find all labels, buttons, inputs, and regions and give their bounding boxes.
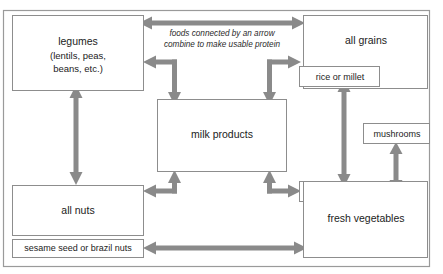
node-all-nuts[interactable]: all nuts [13,186,144,236]
node-all-grains-label: all grains [345,34,387,46]
node-mushrooms-label: mushrooms [373,129,421,139]
caption-line-2: combine to make usable protein [164,40,281,49]
node-sesame-seed-or-brazil-nuts-label: sesame seed or brazil nuts [24,243,132,253]
node-rice-or-millet-label: rice or millet [316,72,365,82]
node-legumes-label-line1: legumes [58,35,98,47]
node-legumes[interactable]: legumes (lentils, peas, beans, etc.) [13,16,144,91]
node-rice-or-millet[interactable]: rice or millet [300,67,380,87]
node-fresh-vegetables-label: fresh vegetables [327,212,404,224]
connector-rice-potato [338,79,351,187]
node-mushrooms[interactable]: mushrooms [364,124,430,144]
connector-sesame-fresh-vegetables [143,242,307,255]
connector-legumes-milk-products [143,56,181,106]
diagram-caption: foods connected by an arrow combine to m… [164,29,281,49]
node-sesame-seed-or-brazil-nuts[interactable]: sesame seed or brazil nuts [13,240,144,258]
diagram-canvas: legumes (lentils, peas, beans, etc.) all… [0,0,443,274]
food-combining-diagram: legumes (lentils, peas, beans, etc.) all… [0,0,443,274]
node-all-nuts-label: all nuts [61,204,94,216]
connector-legumes-all-nuts [70,85,83,185]
connector-all-grains-milk-products [263,56,301,106]
node-legumes-label-line3: beans, etc.) [53,63,103,74]
connector-potato-milk-products [263,170,301,198]
connector-all-nuts-milk-products [143,170,181,198]
caption-line-1: foods connected by an arrow [169,29,275,38]
node-legumes-label-line2: (lentils, peas, [50,50,106,61]
node-milk-products-label: milk products [191,128,253,140]
node-fresh-vegetables[interactable]: fresh vegetables [304,182,428,258]
node-milk-products[interactable]: milk products [158,100,287,172]
connector-legumes-all-grains [139,17,305,30]
